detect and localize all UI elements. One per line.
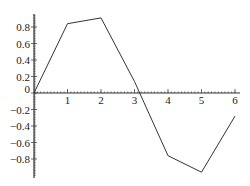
axes: 123456 0.80.60.40.20−0.2−0.4−0.6−0.8	[10, 14, 240, 178]
x-tick-label: 6	[232, 94, 238, 106]
y-tick-label: −0.4	[10, 120, 30, 132]
y-tick-label: −0.2	[10, 104, 30, 116]
y-tick-label: −0.8	[10, 153, 30, 165]
line-chart: 123456 0.80.60.40.20−0.2−0.4−0.6−0.8	[0, 0, 250, 186]
y-tick-label: 0.8	[16, 21, 30, 33]
x-tick-label: 4	[165, 94, 171, 106]
x-tick-label: 2	[98, 94, 104, 106]
x-tick-label: 1	[65, 94, 71, 106]
y-tick-label: 0.2	[16, 71, 30, 83]
y-tick-label: 0	[25, 83, 31, 95]
y-ticks: 0.80.60.40.20−0.2−0.4−0.6−0.8	[10, 21, 37, 165]
x-tick-label: 5	[199, 94, 205, 106]
y-tick-label: 0.4	[16, 54, 30, 66]
x-tick-label: 3	[132, 94, 138, 106]
y-tick-label: 0.6	[16, 38, 30, 50]
y-tick-label: −0.6	[10, 137, 30, 149]
